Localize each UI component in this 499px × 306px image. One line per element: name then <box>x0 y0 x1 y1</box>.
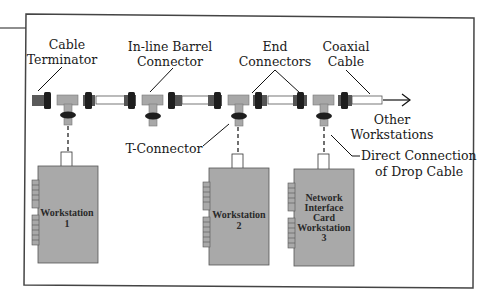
direct-connection-label-2: of Drop Cable <box>375 164 463 179</box>
coaxial-cable-label-2: Cable <box>328 54 364 69</box>
workstation-3-number: 3 <box>322 232 327 243</box>
other-workstations-label-1: Other <box>374 112 411 127</box>
cable-terminator-label-1: Cable <box>49 37 85 52</box>
t-connector-1 <box>57 92 95 125</box>
workstation-1-number: 1 <box>65 218 70 229</box>
other-workstations-label-2: Workstations <box>351 127 434 142</box>
workstation-2-number: 2 <box>237 220 242 231</box>
barrel-connector-label-1: In-line Barrel <box>128 39 213 54</box>
workstation-2-card: Workstation 2 <box>203 154 269 265</box>
workstation-1-label: Workstation <box>40 207 94 218</box>
arrow-right-icon <box>383 94 410 106</box>
t-connector-4 <box>293 92 352 126</box>
network-diagram: Workstation 1 Workstation 2 Network Inte… <box>0 0 499 306</box>
workstation-3-card: Network Interface Card Workstation 3 <box>288 154 354 266</box>
workstation-1-card: Workstation 1 <box>32 152 98 263</box>
direct-connection-label-1: Direct Connection <box>361 148 477 163</box>
t-connector-2 <box>124 92 182 126</box>
t-connector-3 <box>208 92 267 126</box>
end-connectors-label-2: Connectors <box>239 54 312 69</box>
t-connector-label: T-Connector <box>125 141 202 156</box>
coaxial-cable-label-1: Coaxial <box>322 39 369 54</box>
workstation-2-label: Workstation <box>212 209 266 220</box>
barrel-connector-label-2: Connector <box>137 54 203 69</box>
cable-terminator-label-2: Terminator <box>27 52 98 67</box>
end-connectors-label-1: End <box>262 39 287 54</box>
cable-terminator <box>32 92 51 109</box>
